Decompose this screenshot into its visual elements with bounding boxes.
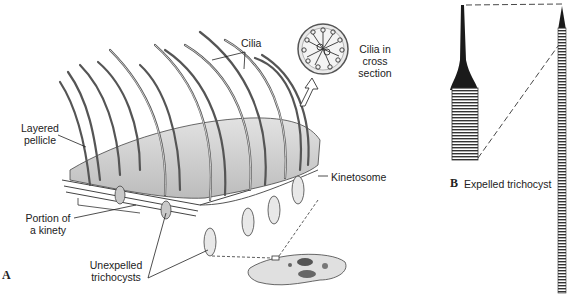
- label-layered-pellicle-line2: pellicle: [18, 134, 62, 146]
- label-cross-section-line3: section: [355, 67, 395, 79]
- label-kinetosome: Kinetosome: [331, 171, 386, 183]
- cross-section-arrow: [300, 78, 318, 106]
- label-cilia-cross-section: Cilia in cross section: [355, 43, 395, 79]
- zoom-leader-lines: [212, 200, 318, 258]
- label-layered-pellicle: Layered pellicle: [18, 122, 62, 146]
- trichocyst-dashed-lines: [466, 4, 562, 158]
- label-cilia: Cilia: [241, 37, 261, 49]
- expelled-trichocyst: [450, 5, 566, 293]
- paramecium-cell: [248, 254, 346, 285]
- label-unexpelled-line1: Unexpelled: [86, 259, 146, 271]
- label-expelled-trichocyst: Expelled trichocyst: [464, 178, 552, 190]
- label-layered-pellicle-line1: Layered: [18, 122, 62, 134]
- label-cross-section-line1: Cilia in: [355, 43, 395, 55]
- cilia-cross-section: [298, 24, 348, 74]
- label-kinety-line2: a kinety: [22, 224, 74, 236]
- label-portion-of-kinety: Portion of a kinety: [22, 212, 74, 236]
- panel-letter-b: B: [450, 176, 458, 191]
- panel-letter-a: A: [2, 268, 11, 283]
- diagram-canvas: [0, 0, 572, 295]
- pellicle-surface: [62, 118, 320, 216]
- label-unexpelled-line2: trichocysts: [86, 271, 146, 283]
- label-unexpelled-trichocysts: Unexpelled trichocysts: [86, 259, 146, 283]
- label-kinety-line1: Portion of: [22, 212, 74, 224]
- label-cross-section-line2: cross: [355, 55, 395, 67]
